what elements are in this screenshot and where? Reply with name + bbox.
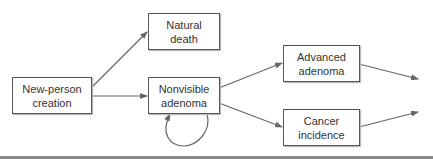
bottom-divider: [0, 156, 433, 159]
edge-nonvisible-to-advanced-adenoma: [219, 63, 282, 88]
edge-nonvisible-to-cancer-incidence: [219, 103, 282, 127]
node-advanced-adenoma: Advanced adenoma: [283, 45, 360, 82]
flowchart-diagram: New-person creation Natural death Nonvis…: [0, 0, 433, 161]
node-nonvisible-adenoma: Nonvisible adenoma: [148, 77, 220, 114]
edge-new-person-to-natural-death: [91, 32, 147, 88]
edge-advanced-adenoma-out: [359, 64, 418, 79]
node-new-person-creation: New-person creation: [12, 77, 92, 114]
node-cancer-incidence: Cancer incidence: [283, 109, 360, 146]
node-natural-death: Natural death: [148, 13, 220, 50]
edge-nonvisible-adenoma-self-loop: [166, 114, 208, 146]
edge-cancer-incidence-out: [359, 112, 418, 127]
